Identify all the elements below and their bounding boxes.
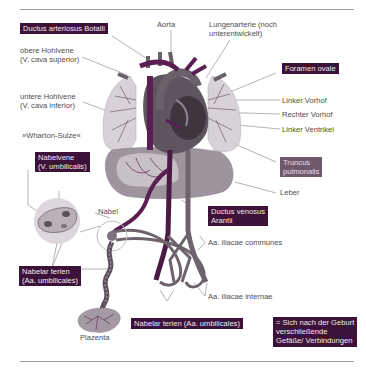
label-linker-vorhof: Linker Vorhof bbox=[282, 96, 327, 105]
label-nabelarterien-left-2: (Aa. umbilicales) bbox=[22, 276, 78, 285]
label-obere-hohlvene-1: obere Hohlvene bbox=[20, 46, 74, 55]
label-iliacae-communes: Aa. iliacae communes bbox=[208, 238, 282, 247]
label-untere-hohlvene-1: untere Hohlvene bbox=[20, 92, 76, 101]
label-linker-ventrikel: Linker Ventrikel bbox=[282, 125, 334, 134]
label-lungenarterie-2: unterentwickelt) bbox=[209, 29, 262, 38]
label-lungenarterie-1: Lungenarterie (noch bbox=[209, 20, 277, 29]
label-nabelarterien-left-1: Nabelar terien bbox=[22, 267, 78, 276]
label-nabelvene-2: (V. umbilicalis) bbox=[38, 162, 87, 171]
label-leber: Leber bbox=[280, 188, 299, 197]
label-nabelvene: Nabelvene (V. umbilicalis) bbox=[35, 152, 90, 172]
legend-line-2: verschließende bbox=[276, 327, 354, 336]
label-ductus-venosus: Ductus venosus Arantii bbox=[208, 206, 268, 226]
label-obere-hohlvene-2: (V. cava superior) bbox=[20, 55, 79, 64]
label-nabelarterien-left: Nabelar terien (Aa. umbilicales) bbox=[19, 266, 81, 286]
cross-section-vessel-1 bbox=[44, 221, 52, 227]
legend-line-1: = Sich nach der Geburt bbox=[276, 318, 354, 327]
label-wharton-sulze: »Wharton-Sulze« bbox=[22, 131, 81, 140]
cross-section-vessel-2 bbox=[62, 211, 70, 217]
label-truncus-2: pulmonalis bbox=[283, 167, 319, 176]
right-lung bbox=[208, 76, 241, 152]
label-iliacae-internae: Aa. iliacae internae bbox=[208, 292, 273, 301]
label-nabel: Nabel bbox=[98, 207, 118, 216]
label-ductus-venosus-2: Arantii bbox=[211, 216, 265, 225]
label-plazenta: Plazenta bbox=[80, 333, 110, 342]
cross-section-vessel-3 bbox=[61, 224, 67, 228]
placenta bbox=[78, 308, 120, 332]
label-foramen-ovale: Foramen ovale bbox=[282, 63, 339, 74]
navel bbox=[107, 231, 117, 241]
label-aorta: Aorta bbox=[157, 20, 175, 29]
label-rechter-vorhof: Rechter Vorhof bbox=[282, 110, 333, 119]
left-lung bbox=[103, 76, 136, 152]
label-truncus-1: Truncus bbox=[283, 158, 319, 167]
label-nabelarterien-bottom: Nabelar terien (Aa. umbilicales) bbox=[131, 318, 243, 329]
label-nabelvene-1: Nabelvene bbox=[38, 153, 87, 162]
label-ductus-arteriosus: Ductus arteriosus Botalli bbox=[20, 23, 108, 34]
label-ductus-venosus-1: Ductus venosus bbox=[211, 207, 265, 216]
label-truncus-pulmonalis: Truncus pulmonalis bbox=[280, 157, 322, 177]
legend-box: = Sich nach der Geburt verschließende Ge… bbox=[273, 317, 357, 347]
legend-line-3: Gefäße/ Verbindungen bbox=[276, 336, 354, 345]
label-untere-hohlvene-2: (V. cava inferior) bbox=[20, 101, 75, 110]
